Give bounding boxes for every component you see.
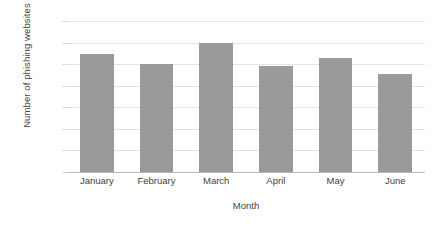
x-tick-label: June	[365, 175, 425, 186]
plot-area	[67, 21, 425, 172]
x-axis-tick-labels: JanuaryFebruaryMarchAprilMayJune	[67, 175, 425, 186]
bar-slot	[306, 21, 366, 172]
bar-slot	[246, 21, 306, 172]
x-axis-title: Month	[67, 200, 425, 211]
bar-slot	[67, 21, 127, 172]
bar[interactable]	[319, 58, 352, 172]
bar-slot	[127, 21, 187, 172]
x-tick-label: April	[246, 175, 306, 186]
y-axis-title: Number of phishing websites	[21, 0, 32, 146]
x-tick-label: January	[67, 175, 127, 186]
bar[interactable]	[378, 74, 411, 172]
bar-slot	[365, 21, 425, 172]
bar[interactable]	[80, 54, 113, 172]
bar[interactable]	[199, 43, 232, 172]
x-tick-label: May	[306, 175, 366, 186]
x-tick-label: February	[127, 175, 187, 186]
x-tick-label: March	[186, 175, 246, 186]
bar-series	[67, 21, 425, 172]
bar[interactable]	[259, 66, 292, 172]
x-axis-line	[67, 172, 425, 174]
bar-chart: Number of phishing websites 010000200003…	[0, 0, 447, 231]
bar[interactable]	[140, 64, 173, 172]
bar-slot	[186, 21, 246, 172]
